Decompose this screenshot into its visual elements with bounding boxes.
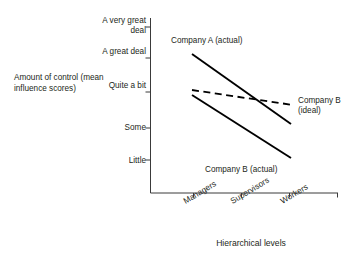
series-line-company-b-actual bbox=[192, 95, 291, 158]
plot-area bbox=[0, 0, 360, 263]
series-line-company-a-actual bbox=[192, 54, 291, 124]
series-line-company-b-ideal bbox=[192, 90, 293, 105]
influence-chart: Amount of control (mean influence scores… bbox=[0, 0, 360, 263]
